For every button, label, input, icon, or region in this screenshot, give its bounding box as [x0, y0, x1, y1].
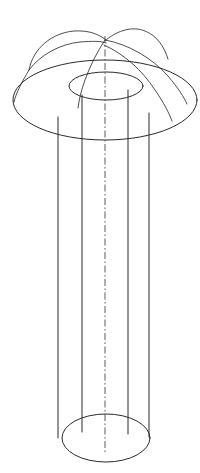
- bore-top-group: [69, 72, 143, 100]
- crown-arc-group: [14, 29, 187, 121]
- crown-arc-left-sweep-icon: [14, 70, 29, 102]
- figure-root: [0, 0, 200, 473]
- cylinder-bottom-group: [62, 414, 150, 462]
- bore-top-ellipse-icon: [69, 72, 143, 100]
- cylinder-bottom-ellipse-icon: [62, 414, 150, 462]
- crown-arc-right-outer-icon: [106, 29, 168, 59]
- crown-arc-right-mid-icon: [105, 40, 187, 104]
- cylinder-wall-group: [58, 90, 149, 438]
- crown-arc-left-inner-icon: [29, 41, 106, 70]
- crown-arc-left-outer-icon: [29, 31, 106, 70]
- crown-arc-right-low-icon: [104, 45, 172, 121]
- technical-drawing-canvas: [0, 0, 200, 473]
